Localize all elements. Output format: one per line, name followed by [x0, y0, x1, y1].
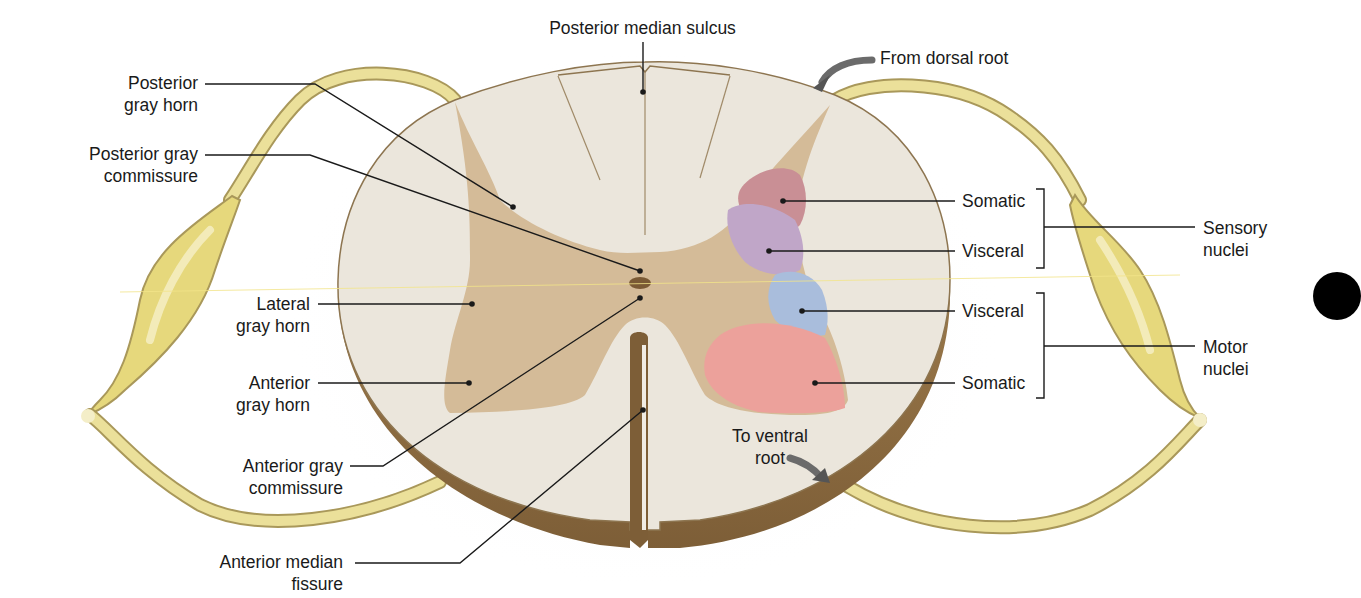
label-line-2: nuclei	[1203, 358, 1249, 380]
label-anterior-gray-horn: Anterior gray horn	[150, 372, 310, 416]
label-line-1: Motor	[1203, 336, 1249, 358]
label-line-2: commissure	[170, 477, 343, 499]
label-sensory-visceral: Visceral	[962, 240, 1024, 262]
label-line-1: Sensory	[1203, 217, 1267, 239]
label-line-2: gray horn	[150, 394, 310, 416]
label-motor-somatic: Somatic	[962, 372, 1025, 394]
label-sensory-somatic: Somatic	[962, 190, 1025, 212]
black-circle-marker	[1313, 272, 1361, 320]
central-canal	[629, 277, 651, 289]
label-line-1: To ventral	[715, 425, 825, 447]
label-line-2: fissure	[160, 573, 343, 595]
label-line-2: gray horn	[40, 94, 198, 116]
label-to-ventral-root: To ventral root	[715, 425, 825, 469]
label-posterior-median-sulcus: Posterior median sulcus	[520, 17, 765, 39]
label-sensory-nuclei: Sensory nuclei	[1203, 217, 1267, 261]
label-line-2: gray horn	[150, 315, 310, 337]
label-posterior-gray-commissure: Posterior gray commissure	[20, 143, 198, 187]
label-line-1: Posterior gray	[20, 143, 198, 165]
label-line-2: root	[715, 447, 825, 469]
label-lateral-gray-horn: Lateral gray horn	[150, 293, 310, 337]
label-anterior-gray-commissure: Anterior gray commissure	[170, 455, 343, 499]
label-anterior-median-fissure: Anterior median fissure	[160, 551, 343, 595]
label-line-2: nuclei	[1203, 239, 1267, 261]
label-motor-nuclei: Motor nuclei	[1203, 336, 1249, 380]
label-posterior-gray-horn: Posterior gray horn	[40, 72, 198, 116]
label-line-1: Anterior	[150, 372, 310, 394]
label-from-dorsal-root: From dorsal root	[880, 47, 1008, 69]
label-line-1: Anterior gray	[170, 455, 343, 477]
label-line-2: commissure	[20, 165, 198, 187]
label-motor-visceral: Visceral	[962, 300, 1024, 322]
label-line-1: Posterior	[40, 72, 198, 94]
label-line-1: Anterior median	[160, 551, 343, 573]
label-line-1: Lateral	[150, 293, 310, 315]
